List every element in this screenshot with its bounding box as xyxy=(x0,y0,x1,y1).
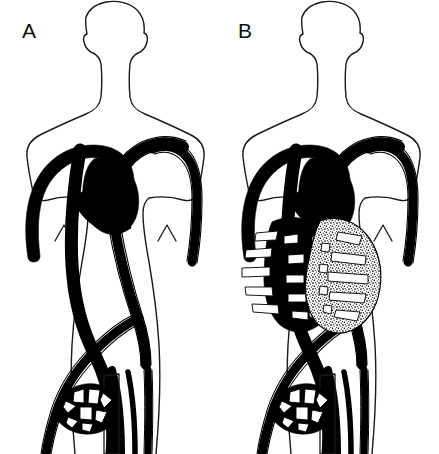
vascular-anatomy-figure: A B xyxy=(0,0,439,454)
panel-a-label: A xyxy=(22,19,37,42)
panel-b-collateral-network xyxy=(242,217,381,333)
panel-b-label: B xyxy=(238,19,253,42)
panel-a: A xyxy=(22,1,204,454)
figure-canvas: A B xyxy=(0,0,439,454)
panel-b: B xyxy=(238,1,420,454)
